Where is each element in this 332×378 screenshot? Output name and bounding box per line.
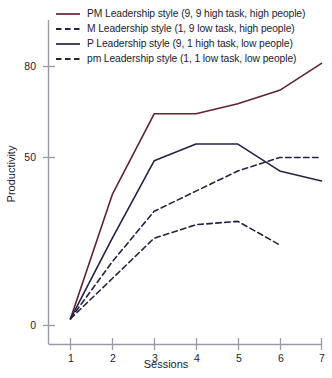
- y-axis-tick-label-80: 80: [6, 60, 36, 72]
- productivity-line-chart: PM Leadership style (9, 9 high task, hig…: [0, 0, 332, 378]
- legend-swatch-solid-navy-icon: [55, 39, 81, 49]
- legend-item-m[interactable]: M Leadership style (1, 9 low task, high …: [55, 21, 332, 36]
- legend-item-pm[interactable]: PM Leadership style (9, 9 high task, hig…: [55, 6, 332, 21]
- legend-label-p: P Leadership style (9, 1 high task, low …: [87, 36, 293, 51]
- series-line-pm-lower-leadership: [71, 221, 280, 318]
- legend-item-pm-lower[interactable]: pm Leadership style (1, 1 low task, low …: [55, 51, 332, 66]
- y-axis-tick-label-0: 0: [6, 319, 36, 331]
- legend-swatch-solid-maroon-icon: [55, 9, 81, 19]
- x-axis-title: Sessions: [0, 358, 332, 370]
- legend-label-pm-lower: pm Leadership style (1, 1 low task, low …: [87, 51, 296, 66]
- legend-swatch-dashed-navy-icon: [55, 24, 81, 34]
- y-axis-title: Productivity: [5, 119, 17, 229]
- legend-label-pm: PM Leadership style (9, 9 high task, hig…: [87, 6, 305, 21]
- chart-legend: PM Leadership style (9, 9 high task, hig…: [55, 6, 332, 66]
- legend-item-p[interactable]: P Leadership style (9, 1 high task, low …: [55, 36, 332, 51]
- series-line-m-leadership: [71, 158, 322, 319]
- legend-label-m: M Leadership style (1, 9 low task, high …: [87, 21, 295, 36]
- series-group: [71, 63, 322, 318]
- series-line-p-leadership: [71, 144, 322, 319]
- legend-swatch-dashed-navy-2-icon: [55, 54, 81, 64]
